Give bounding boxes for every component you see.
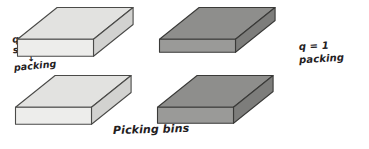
bin-top-left (16, 6, 136, 59)
bin-top-right (158, 6, 278, 55)
bin-bottom-right (156, 74, 276, 126)
right-annotation-line2: packing (299, 52, 344, 65)
diagram-canvas: q>1 sorting ↓ packing q = 1 packing Pick… (0, 0, 369, 149)
right-annotation-line1: q = 1 (299, 40, 344, 53)
bin-bottom-left (14, 74, 134, 127)
bin-bottom-right-front-face (158, 107, 234, 123)
bin-top-right-front-face (160, 39, 236, 52)
bin-top-left-front-face (18, 39, 94, 56)
right-annotation: q = 1 packing (299, 41, 344, 67)
bin-bottom-left-front-face (16, 107, 92, 124)
left-annotation-line3: packing (13, 59, 56, 73)
